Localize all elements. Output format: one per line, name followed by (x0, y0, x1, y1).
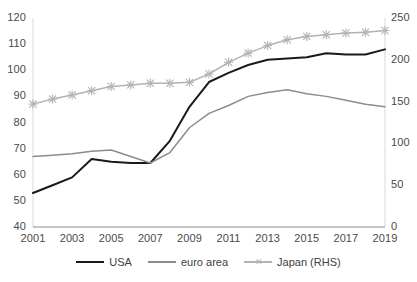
y-left-tick-label: 120 (0, 11, 26, 23)
axis-lines (33, 18, 385, 227)
legend-label: euro area (181, 256, 228, 268)
series-marker-japan (302, 32, 311, 41)
y-left-tick-label: 50 (0, 194, 26, 206)
y-left-tick-label: 90 (0, 89, 26, 101)
series-marker-japan (29, 100, 38, 109)
series-line-euro-area (33, 90, 385, 163)
legend-swatch-japan-rhs: ✕ (244, 256, 272, 268)
legend-item[interactable]: ✕Japan (RHS) (244, 256, 341, 268)
series-marker-japan (107, 82, 116, 91)
chart-legend: USAeuro area✕Japan (RHS) (0, 256, 417, 268)
x-tick-label: 2001 (15, 232, 51, 244)
y-right-tick-label: 200 (391, 53, 417, 65)
x-tick-label: 2009 (171, 232, 207, 244)
y-right-tick-label: 250 (391, 11, 417, 23)
series-marker-japan (381, 26, 390, 35)
series-marker-japan (322, 30, 331, 39)
y-left-tick-label: 70 (0, 142, 26, 154)
series-layer (29, 26, 390, 193)
x-tick-label: 2013 (250, 232, 286, 244)
series-marker-japan (185, 78, 194, 87)
series-marker-japan (68, 90, 77, 99)
legend-item[interactable]: USA (76, 256, 132, 268)
series-line-japan-rhs (33, 31, 385, 105)
series-marker-japan (283, 35, 292, 44)
series-marker-japan (165, 79, 174, 88)
chart-container: 405060708090100110120 050100150200250 20… (0, 0, 417, 282)
y-left-tick-label: 110 (0, 37, 26, 49)
x-tick-label: 2003 (54, 232, 90, 244)
series-marker-japan (87, 86, 96, 95)
y-left-tick-label: 100 (0, 63, 26, 75)
y-right-tick-label: 50 (391, 178, 417, 190)
series-marker-japan (205, 70, 214, 79)
y-right-tick-label: 0 (391, 220, 417, 232)
series-marker-japan (341, 29, 350, 38)
x-tick-label: 2011 (211, 232, 247, 244)
legend-label: USA (109, 256, 132, 268)
series-marker-japan (126, 80, 135, 89)
legend-item[interactable]: euro area (148, 256, 228, 268)
legend-label: Japan (RHS) (277, 256, 341, 268)
y-left-tick-label: 40 (0, 220, 26, 232)
x-tick-label: 2005 (93, 232, 129, 244)
y-right-tick-label: 100 (391, 136, 417, 148)
series-marker-japan (48, 95, 57, 104)
x-tick-label: 2015 (289, 232, 325, 244)
x-tick-label: 2019 (367, 232, 403, 244)
series-marker-japan (244, 49, 253, 58)
x-tick-label: 2007 (132, 232, 168, 244)
y-right-tick-label: 150 (391, 95, 417, 107)
y-left-tick-label: 60 (0, 168, 26, 180)
x-marker-icon: ✕ (255, 259, 262, 266)
legend-swatch-euro-area (148, 256, 176, 268)
series-marker-japan (224, 58, 233, 67)
legend-swatch-usa (76, 256, 104, 268)
x-tick-label: 2017 (328, 232, 364, 244)
series-marker-japan (146, 79, 155, 88)
series-marker-japan (263, 41, 272, 50)
series-marker-japan (361, 28, 370, 37)
y-left-tick-label: 80 (0, 116, 26, 128)
